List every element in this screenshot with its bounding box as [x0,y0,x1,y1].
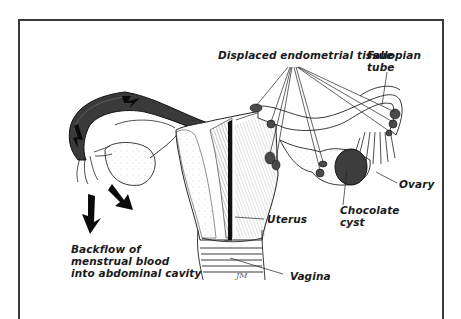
uterus [176,108,278,240]
label-uterus: Uterus [267,213,307,225]
right-fallopian-tube [258,86,402,135]
label-vagina: Vagina [290,270,331,282]
chocolate-cyst [335,149,367,185]
label-fallopian-tube-line2: tube [367,61,395,73]
label-backflow-line1: Backflow of [71,243,141,255]
artist-signature: JM [234,271,248,280]
backflow-arrows [82,184,133,234]
label-fallopian-tube-line1: Fallopian [367,49,421,61]
label-chocolate-cyst-line2: cyst [340,216,365,228]
label-chocolate-cyst-line1: Chocolate [340,204,400,216]
label-backflow-line3: into abdominal cavity [71,267,201,279]
left-ovary [105,120,180,185]
label-backflow-line2: menstrual blood [71,255,169,267]
label-ovary: Ovary [399,178,434,190]
